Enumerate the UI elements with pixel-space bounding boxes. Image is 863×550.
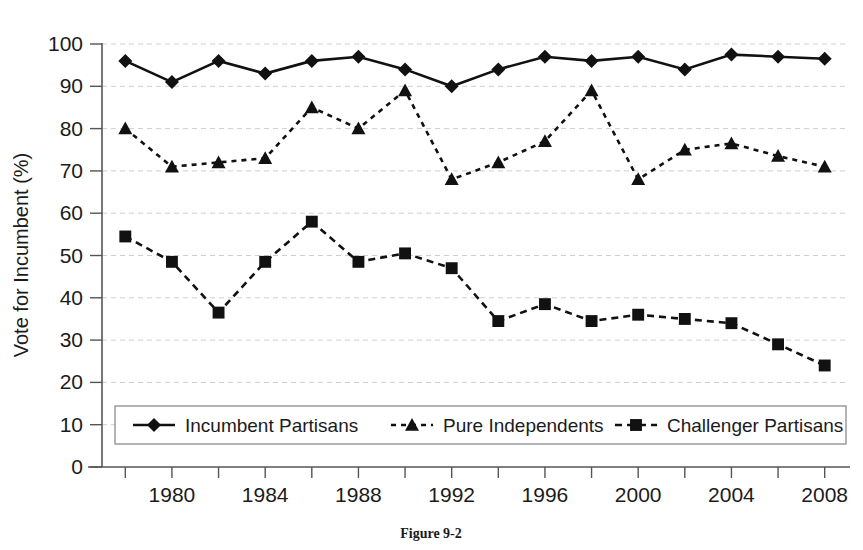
data-point-marker [445,172,459,185]
y-tick-label: 100 [48,32,83,55]
data-point-marker [631,172,645,185]
y-axis-ticks: 0102030405060708090100 [48,32,102,478]
data-point-marker [399,247,411,259]
x-tick-label: 2004 [708,483,755,506]
data-point-marker [538,50,552,64]
data-point-marker [306,216,318,228]
legend-marker-square [630,419,642,431]
x-tick-label: 1988 [335,483,382,506]
data-point-marker [725,317,737,329]
data-point-marker [352,256,364,268]
y-tick-label: 80 [60,117,83,140]
data-point-marker [491,155,505,168]
data-point-marker [818,160,832,173]
data-point-marker [351,50,365,64]
data-point-marker [632,309,644,321]
data-point-marker [212,54,226,68]
y-tick-label: 30 [60,328,83,351]
data-point-marker [539,298,551,310]
data-series [118,48,831,372]
data-point-marker [165,75,179,89]
y-tick-label: 60 [60,201,83,224]
x-tick-label: 1984 [242,483,289,506]
x-tick-label: 2008 [801,483,848,506]
x-tick-label: 1992 [428,483,475,506]
y-tick-label: 10 [60,413,83,436]
legend-label: Incumbent Partisans [185,415,358,436]
data-point-marker [724,48,738,62]
y-tick-label: 20 [60,370,83,393]
y-tick-label: 0 [71,455,83,478]
data-point-marker [259,256,271,268]
x-tick-label: 1996 [522,483,569,506]
series-challenger-partisans [119,216,830,372]
data-point-marker [166,256,178,268]
figure-container: 0102030405060708090100 19801984198819921… [0,0,863,550]
data-point-marker [446,262,458,274]
legend-label: Pure Independents [443,415,604,436]
series-line [125,55,824,87]
data-point-marker [445,79,459,93]
y-axis-title: Vote for Incumbent (%) [10,153,32,358]
x-tick-label: 2000 [615,483,662,506]
y-tick-label: 90 [60,74,83,97]
data-point-marker [305,54,319,68]
data-point-marker [819,360,831,372]
data-point-marker [585,54,599,68]
data-point-marker [119,231,131,243]
data-point-marker [118,122,132,135]
series-line [125,222,824,366]
data-point-marker [492,315,504,327]
y-tick-label: 70 [60,159,83,182]
data-point-marker [258,67,272,81]
data-point-marker [631,50,645,64]
x-tick-label: 1980 [149,483,196,506]
data-point-marker [491,62,505,76]
data-point-marker [771,50,785,64]
grid-lines [102,44,848,425]
data-point-marker [585,84,599,97]
data-point-marker [586,315,598,327]
y-tick-label: 40 [60,286,83,309]
data-point-marker [678,62,692,76]
data-point-marker [213,307,225,319]
line-chart: 0102030405060708090100 19801984198819921… [0,0,863,550]
data-point-marker [818,52,832,66]
x-axis-ticks: 19801984198819921996200020042008 [125,467,848,506]
data-point-marker [398,62,412,76]
data-point-marker [118,54,132,68]
data-point-marker [398,84,412,97]
series-line [125,91,824,180]
y-tick-label: 50 [60,244,83,267]
data-point-marker [772,338,784,350]
chart-legend: Incumbent PartisansPure IndependentsChal… [115,406,846,444]
figure-caption: Figure 9-2 [400,526,462,541]
data-point-marker [679,313,691,325]
series-pure-independents [118,84,831,186]
legend-label: Challenger Partisans [667,415,843,436]
data-point-marker [305,100,319,113]
